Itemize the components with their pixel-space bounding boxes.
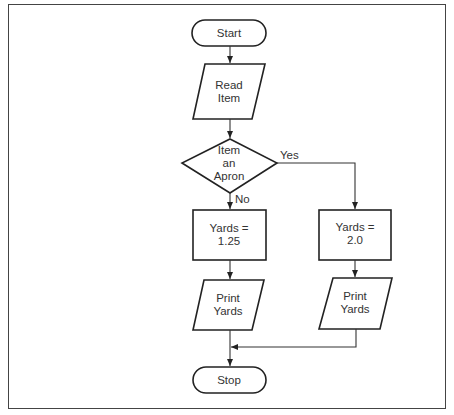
start-label: Start [217,27,241,40]
edge-print-yes-merge [231,329,356,347]
flowchart-shapes [0,0,454,415]
yards-yes-label: Yards = 2.0 [335,221,374,247]
flowchart-canvas: Start Read Item Item an Apron Yards = 1.… [0,0,454,415]
edge-decision-yes [277,163,355,209]
read-item-label: Read Item [215,79,243,105]
stop-label: Stop [217,374,241,387]
yes-edge-label: Yes [280,149,299,161]
print-yards-yes-label: Print Yards [340,290,369,316]
yards-no-label: Yards = 1.25 [209,222,248,248]
no-edge-label: No [235,193,250,205]
decision-label: Item an Apron [214,144,245,183]
print-yards-no-label: Print Yards [213,292,242,318]
